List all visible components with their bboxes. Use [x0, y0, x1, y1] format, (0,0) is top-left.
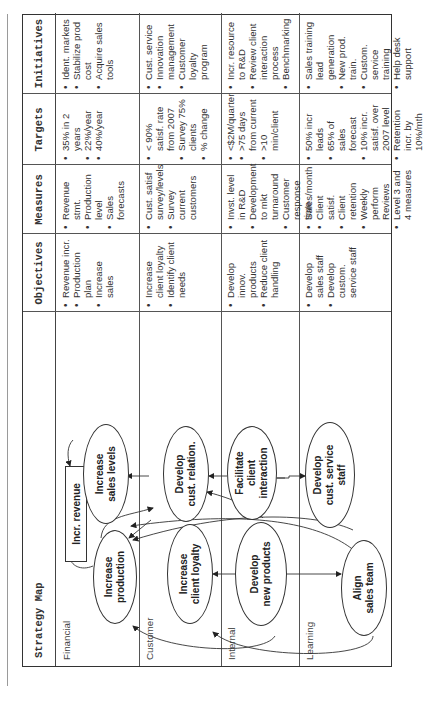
page-margin-rule: [7, 14, 8, 686]
node-text: Increase: [94, 446, 106, 502]
node-develop-new-products: Developnew products: [235, 522, 287, 626]
list-item: Help desk support: [391, 17, 413, 89]
node-text: Align: [352, 562, 364, 613]
node-increase-sales-levels: Increasesales levels: [83, 424, 129, 524]
node-text: sales team: [364, 562, 376, 613]
node-text: interaction: [258, 447, 270, 498]
node-text: Facilitate: [234, 447, 246, 498]
node-text: Develop: [174, 442, 186, 507]
node-develop-cust-service-staff: Developcust. servicestaff: [305, 422, 355, 528]
strategy-map-table-rotated: Strategy Map Objectives Measures Targets…: [22, 14, 392, 667]
node-facilitate-client-interaction: Facilitateclientinteraction: [227, 426, 277, 520]
node-text: cust. relation.: [186, 442, 198, 507]
node-text: client loyalty: [190, 544, 202, 605]
node-text: Increase: [178, 544, 190, 605]
node-text: Develop: [312, 445, 324, 506]
list-item: Level 3 and 4 measures: [391, 169, 413, 229]
node-text: staff: [336, 445, 348, 506]
node-text: client: [246, 447, 258, 498]
node-text: cust. service: [324, 445, 336, 506]
node-text: production: [115, 551, 127, 603]
node-text: Develop: [249, 542, 261, 607]
node-text: new products: [261, 542, 273, 607]
node-text: Increase: [103, 551, 115, 603]
node-text: sales levels: [106, 446, 118, 502]
node-increase-production: Increaseproduction: [93, 530, 137, 624]
node-develop-cust-relation: Developcust. relation.: [163, 426, 209, 522]
node-increase-client-loyalty: Increaseclient loyalty: [167, 524, 213, 624]
strategy-map-table: Strategy Map Objectives Measures Targets…: [22, 14, 392, 667]
node-align-sales-team: Alignsales team: [341, 540, 387, 636]
list-item: Retention incr. by 10%/mth: [391, 98, 424, 160]
